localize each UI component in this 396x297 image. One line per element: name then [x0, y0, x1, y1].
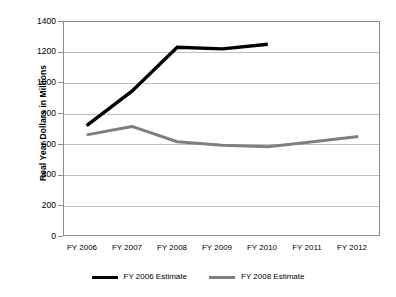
plot-area [63, 21, 380, 236]
y-tick-label-800: 800 [16, 109, 56, 118]
legend-label-fy2006-estimate: FY 2006 Estimate [124, 272, 187, 282]
y-tick-label-1400: 1400 [16, 17, 56, 26]
series-plot [64, 22, 381, 237]
legend-swatch-icon [92, 276, 118, 279]
series-line-fy2008-estimate [87, 126, 359, 146]
legend-swatch-icon [209, 276, 235, 279]
x-tick-label-fy2012: FY 2012 [322, 243, 382, 253]
series-line-fy2006-estimate [87, 44, 268, 125]
legend-entry-fy2006-estimate: FY 2006 Estimate [92, 272, 187, 282]
legend-entry-fy2008-estimate: FY 2008 Estimate [209, 272, 304, 282]
line-chart: Real Year Dollars in Millions 1400 1200 … [0, 0, 396, 297]
y-tick-label-1200: 1200 [16, 47, 56, 56]
y-tick-mark-0 [58, 236, 63, 237]
y-tick-label-200: 200 [16, 201, 56, 210]
y-tick-label-1000: 1000 [16, 78, 56, 87]
legend-label-fy2008-estimate: FY 2008 Estimate [241, 272, 304, 282]
y-tick-label-0: 0 [16, 232, 56, 241]
chart-legend: FY 2006 Estimate FY 2008 Estimate [0, 272, 396, 282]
y-tick-label-400: 400 [16, 170, 56, 179]
y-axis-title: Real Year Dollars in Millions [38, 28, 48, 218]
y-tick-label-600: 600 [16, 140, 56, 149]
